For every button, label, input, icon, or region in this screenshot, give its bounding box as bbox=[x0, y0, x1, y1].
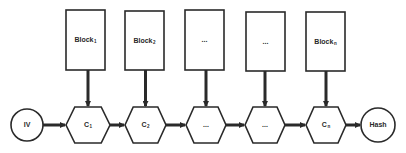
block-label: ... bbox=[263, 37, 269, 44]
compress-label-text: ... bbox=[262, 121, 268, 128]
block-label-text: ... bbox=[263, 37, 269, 44]
compress-label: ... bbox=[262, 121, 268, 128]
message-block-2: Block2 bbox=[125, 11, 164, 70]
hash-label-text: Hash bbox=[369, 121, 386, 128]
block-label-text: ... bbox=[202, 36, 208, 43]
hash-node: Hash bbox=[361, 108, 395, 142]
nodes: IVHashBlock1Block2......BlocknC1C2......… bbox=[11, 10, 395, 143]
message-block-5: Blockn bbox=[306, 12, 345, 71]
compress-label: ... bbox=[203, 121, 209, 128]
compress-label-text: ... bbox=[203, 121, 209, 128]
merkle-damgard-diagram: IVHashBlock1Block2......BlocknC1C2......… bbox=[0, 0, 406, 153]
block-label-subscript: n bbox=[334, 41, 337, 46]
block-label-text: Block bbox=[74, 36, 93, 43]
hash-label: Hash bbox=[369, 121, 386, 128]
compress-node-3: ... bbox=[186, 107, 226, 143]
iv-label: IV bbox=[24, 121, 31, 128]
compress-label-text: C bbox=[84, 121, 89, 128]
compress-node-1: C1 bbox=[66, 107, 110, 143]
compress-label-text: C bbox=[141, 121, 146, 128]
compress-node-2: C2 bbox=[125, 107, 166, 143]
iv-node: IV bbox=[11, 109, 43, 141]
block-label: ... bbox=[202, 36, 208, 43]
compress-node-4: ... bbox=[245, 107, 285, 143]
message-block-3: ... bbox=[185, 10, 224, 70]
compress-node-5: Cn bbox=[306, 107, 346, 143]
message-block-1: Block1 bbox=[66, 10, 105, 70]
message-block-4: ... bbox=[246, 12, 285, 71]
block-label-text: Block bbox=[133, 36, 152, 43]
block-label-text: Block bbox=[314, 37, 333, 44]
compress-label-subscript: n bbox=[327, 124, 330, 129]
iv-label-text: IV bbox=[24, 121, 31, 128]
compress-label-text: C bbox=[322, 121, 327, 128]
